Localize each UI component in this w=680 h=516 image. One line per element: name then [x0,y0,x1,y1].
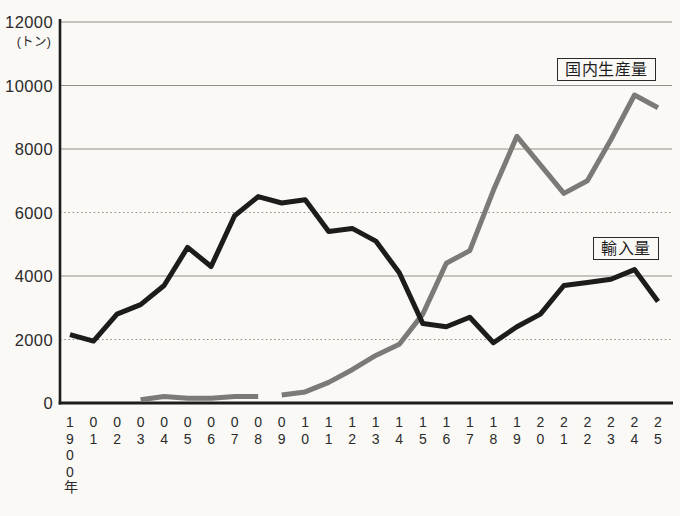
x-tick-label-1905: 05 [180,414,196,447]
x-tick-label-1924: 24 [626,414,642,447]
x-tick-label-1904: 04 [156,414,172,447]
x-tick-label-1918: 18 [485,414,501,447]
x-tick-label-1911: 11 [321,414,337,447]
x-tick-label-1906: 06 [203,414,219,447]
x-tick-label-1921: 21 [556,414,572,447]
x-tick-label-1915: 15 [415,414,431,447]
x-tick-label-1901: 01 [86,414,102,447]
series-line-0 [141,397,259,400]
x-tick-label-1925: 25 [650,414,666,447]
series-line-1 [70,197,658,343]
y-tick-label-10000: 10000 [0,76,53,96]
y-tick-label-0: 0 [0,393,53,413]
y-tick-label-8000: 8000 [0,139,53,159]
x-tick-label-1913: 13 [368,414,384,447]
y-tick-label-2000: 2000 [0,330,53,350]
x-tick-label-1920: 20 [532,414,548,447]
y-axis-unit-label: (トン) [0,31,51,50]
x-tick-label-1919: 19 [509,414,525,447]
legend-imports-label: 輸入量 [593,237,659,260]
line-chart-figure: 020004000600080001000012000 (トン) 1900年01… [0,0,680,516]
x-tick-label-1903: 03 [133,414,149,447]
x-tick-label-1923: 23 [603,414,619,447]
x-tick-label-1907: 07 [227,414,243,447]
x-tick-label-1917: 17 [462,414,478,447]
x-axis-tick-labels: 1900年01020304050607080910111213141516171… [0,414,680,514]
x-tick-label-1922: 22 [579,414,595,447]
x-tick-label-1912: 12 [344,414,360,447]
x-tick-label-1914: 14 [391,414,407,447]
y-tick-label-6000: 6000 [0,203,53,223]
x-tick-label-1910: 10 [297,414,313,447]
y-tick-label-4000: 4000 [0,266,53,286]
x-tick-label-1902: 02 [109,414,125,447]
x-tick-label-1916: 16 [438,414,454,447]
y-tick-label-12000: 12000 [0,12,53,32]
legend-domestic-production-label: 国内生産量 [557,58,656,81]
x-tick-label-1909: 09 [274,414,290,447]
x-tick-label-1900: 1900年 [62,414,78,495]
x-tick-label-1908: 08 [250,414,266,447]
